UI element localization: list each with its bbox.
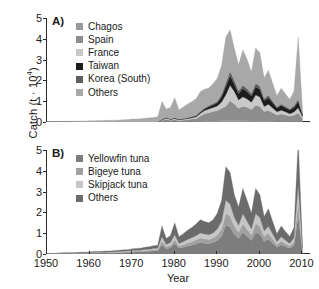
y-tick-label: 3 [36,186,42,197]
y-tick-mark [43,101,47,102]
y-tick-mark [43,212,47,213]
x-tick-mark [216,251,217,255]
legend-label: Bigeye tuna [88,167,141,177]
y-tick-mark [43,254,47,255]
x-tick-label: 2010 [289,258,313,269]
figure-root: Catch (t · 104) A) ChagosSpainFranceTaiw… [0,0,319,289]
y-tick-mark [43,122,47,123]
y-tick-label: 5 [36,13,42,24]
x-tick-mark [89,251,90,255]
legend-label: Taiwan [88,61,119,71]
y-tick-label: 1 [36,228,42,239]
legend-item-others: Others [76,86,150,99]
legend-item-france: France [76,46,150,59]
y-tick-mark [43,18,47,19]
x-tick-label: 1980 [161,258,185,269]
x-tick-mark [259,251,260,255]
x-tick-mark [131,251,132,255]
panel-b-letter: B) [52,147,64,159]
y-tick-mark [43,192,47,193]
y-tick-mark [43,39,47,40]
legend-swatch-icon [76,181,83,188]
y-tick-label: 2 [36,75,42,86]
y-tick-label: 3 [36,54,42,65]
legend-swatch-icon [76,63,83,70]
legend-swatch-icon [76,155,83,162]
legend-item-korea-south: Korea (South) [76,73,150,86]
legend-item-taiwan: Taiwan [76,60,150,73]
y-tick-label: 1 [36,96,42,107]
panel-a: A) ChagosSpainFranceTaiwanKorea (South)O… [46,18,310,122]
legend-label: Others [88,193,118,203]
x-tick-label: 2000 [247,258,271,269]
x-tick-mark [174,251,175,255]
legend-swatch-icon [76,23,83,30]
legend-label: Chagos [88,22,122,32]
x-tick-label: 1990 [204,258,228,269]
y-tick-label: 4 [36,33,42,44]
x-tick-mark [46,251,47,255]
x-tick-label: 1950 [34,258,58,269]
legend-label: France [88,48,119,58]
y-tick-label: 0 [36,117,42,128]
x-tick-mark [301,251,302,255]
y-axis-exponent: 4 [25,71,34,75]
y-tick-mark [43,80,47,81]
legend-item-others: Others [76,192,149,205]
legend-b: Yellowfin tunaBigeye tunaSkipjack tunaOt… [76,152,149,205]
legend-item-chagos: Chagos [76,20,150,33]
legend-item-bigeye-tuna: Bigeye tuna [76,165,149,178]
legend-swatch-icon [76,195,83,202]
legend-item-spain: Spain [76,33,150,46]
legend-swatch-icon [76,168,83,175]
x-tick-label: 1970 [119,258,143,269]
legend-label: Spain [88,35,114,45]
y-tick-mark [43,150,47,151]
panel-b: B) Yellowfin tunaBigeye tunaSkipjack tun… [46,150,310,254]
legend-label: Yellowfin tuna [88,154,149,164]
legend-label: Skipjack tuna [88,180,147,190]
y-tick-mark [43,233,47,234]
y-tick-label: 5 [36,145,42,156]
legend-item-skipjack-tuna: Skipjack tuna [76,178,149,191]
legend-swatch-icon [76,49,83,56]
legend-a: ChagosSpainFranceTaiwanKorea (South)Othe… [76,20,150,99]
legend-swatch-icon [76,89,83,96]
legend-swatch-icon [76,76,83,83]
y-tick-label: 4 [36,165,42,176]
legend-item-yellowfin-tuna: Yellowfin tuna [76,152,149,165]
x-tick-label: 1960 [76,258,100,269]
legend-swatch-icon [76,36,83,43]
y-tick-label: 2 [36,207,42,218]
y-tick-mark [43,171,47,172]
legend-label: Others [88,88,118,98]
x-axis-label: Year [46,272,310,284]
y-tick-mark [43,60,47,61]
panel-a-letter: A) [52,15,64,27]
legend-label: Korea (South) [88,74,150,84]
